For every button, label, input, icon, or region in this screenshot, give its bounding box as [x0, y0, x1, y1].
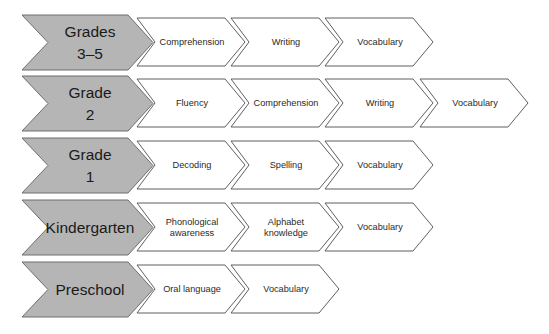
- skill-label: Alphabet: [268, 217, 305, 227]
- stage-label: Kindergarten: [46, 219, 135, 236]
- stage-label: Grades: [65, 23, 116, 40]
- stage-row: Grades3–5ComprehensionWritingVocabulary: [22, 15, 433, 70]
- skill-label: awareness: [170, 228, 215, 238]
- skill-label: Spelling: [270, 160, 303, 170]
- stage-label: 1: [86, 168, 95, 185]
- skill-label: Vocabulary: [452, 98, 498, 108]
- skill-label: Oral language: [163, 284, 221, 294]
- stage-label: Grade: [68, 84, 111, 101]
- skill-label: Vocabulary: [357, 37, 403, 47]
- stage-label: 2: [86, 106, 95, 123]
- skill-label: Comprehension: [254, 98, 319, 108]
- skill-label: Vocabulary: [263, 284, 309, 294]
- skill-label: Writing: [272, 37, 300, 47]
- stage-row: Grade2FluencyComprehensionWritingVocabul…: [22, 76, 528, 131]
- skill-label: knowledge: [264, 228, 308, 238]
- skill-label: Fluency: [176, 98, 209, 108]
- skill-label: Decoding: [173, 160, 212, 170]
- stage-row: Grade1DecodingSpellingVocabulary: [22, 138, 433, 193]
- stage-row: KindergartenPhonologicalawarenessAlphabe…: [22, 200, 433, 255]
- literacy-progression-diagram: Grades3–5ComprehensionWritingVocabularyG…: [0, 0, 549, 334]
- skill-label: Vocabulary: [357, 160, 403, 170]
- stage-label: 3–5: [77, 45, 103, 62]
- stage-label: Preschool: [56, 281, 125, 298]
- skill-label: Comprehension: [160, 37, 225, 47]
- stage-row: PreschoolOral languageVocabulary: [22, 262, 339, 317]
- skill-label: Writing: [366, 98, 394, 108]
- skill-label: Vocabulary: [357, 222, 403, 232]
- skill-label: Phonological: [166, 217, 219, 227]
- stage-label: Grade: [68, 146, 111, 163]
